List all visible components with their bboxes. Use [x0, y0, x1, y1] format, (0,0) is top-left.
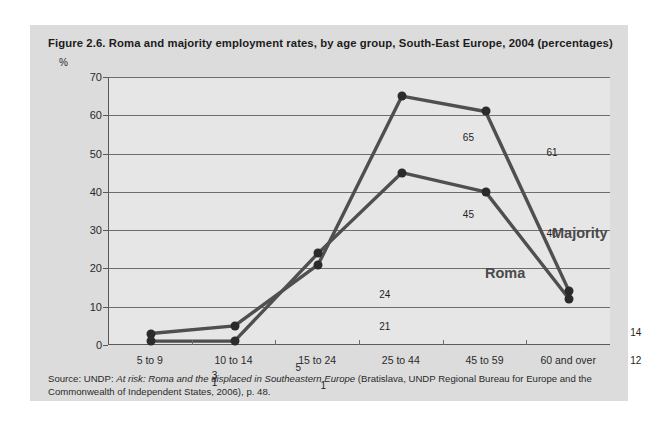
data-point-majority-4	[481, 107, 490, 116]
data-label-majority-5: 14	[630, 327, 641, 338]
data-point-majority-1	[230, 321, 239, 330]
source-prefix: Source: UNDP:	[48, 373, 116, 384]
series-line-roma	[151, 173, 569, 341]
y-tick-label-10: 10	[68, 301, 102, 313]
data-point-roma-0	[146, 337, 155, 346]
y-tick-label-60: 60	[68, 109, 102, 121]
series-label-roma: Roma	[485, 265, 525, 281]
y-tick-label-40: 40	[68, 186, 102, 198]
y-tick-mark-40	[103, 192, 108, 193]
x-tick-mark-5	[526, 340, 527, 345]
x-tick-mark-3	[359, 340, 360, 345]
x-tick-label-45-to-59: 45 to 59	[466, 354, 504, 366]
data-point-roma-5	[565, 295, 574, 304]
x-tick-label-60-and-over: 60 and over	[540, 354, 595, 366]
y-tick-label-50: 50	[68, 148, 102, 160]
y-tick-mark-30	[103, 230, 108, 231]
x-tick-label-10-to-14: 10 to 14	[215, 354, 253, 366]
x-tick-label-25-to-44: 25 to 44	[382, 354, 420, 366]
x-tick-mark-4	[443, 340, 444, 345]
series-label-majority: Majority	[552, 225, 608, 241]
source-note: Source: UNDP: At risk: Roma and the disp…	[48, 373, 614, 399]
series-lines	[109, 77, 611, 345]
plot-area: 35216561141124454012	[108, 77, 610, 345]
y-tick-label-20: 20	[68, 262, 102, 274]
data-point-majority-2	[314, 260, 323, 269]
x-tick-mark-2	[275, 340, 276, 345]
data-label-roma-3: 45	[463, 209, 474, 220]
x-tick-label-15-to-24: 15 to 24	[298, 354, 336, 366]
data-label-majority-2: 21	[379, 321, 390, 332]
data-point-roma-2	[314, 249, 323, 258]
data-label-majority-4: 61	[547, 147, 558, 158]
x-tick-mark-1	[192, 340, 193, 345]
figure-panel: Figure 2.6. Roma and majority employment…	[30, 25, 628, 401]
source-title: At risk: Roma and the displaced in South…	[116, 373, 355, 384]
data-point-roma-3	[397, 168, 406, 177]
y-tick-label-0: 0	[68, 339, 102, 351]
data-label-majority-3: 65	[463, 132, 474, 143]
data-point-majority-3	[397, 92, 406, 101]
figure-title: Figure 2.6. Roma and majority employment…	[48, 37, 613, 49]
y-tick-label-30: 30	[68, 224, 102, 236]
data-point-roma-1	[230, 337, 239, 346]
data-point-roma-4	[481, 187, 490, 196]
y-tick-mark-20	[103, 268, 108, 269]
data-label-roma-2: 24	[379, 289, 390, 300]
y-tick-mark-0	[103, 345, 108, 346]
y-tick-mark-60	[103, 115, 108, 116]
data-label-roma-5: 12	[630, 355, 641, 366]
y-axis-unit-label: %	[59, 57, 68, 68]
y-tick-mark-50	[103, 154, 108, 155]
y-tick-mark-70	[103, 77, 108, 78]
y-tick-label-70: 70	[68, 71, 102, 83]
x-tick-label-5-to-9: 5 to 9	[137, 354, 163, 366]
y-tick-mark-10	[103, 307, 108, 308]
